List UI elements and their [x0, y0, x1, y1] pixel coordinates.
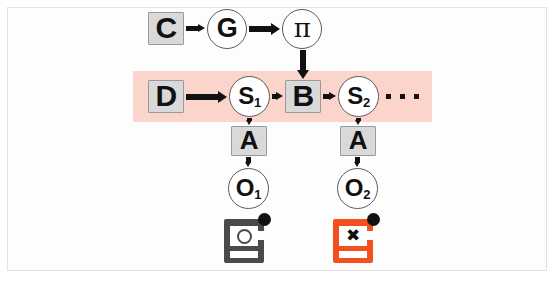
edge-B-to-S2	[323, 89, 336, 105]
device-screen	[230, 226, 258, 246]
node-D: D	[148, 80, 184, 113]
node-G: G	[207, 9, 247, 49]
device-antenna-ball	[258, 213, 271, 226]
edge-arrowhead	[198, 24, 205, 32]
edge-arrowhead	[246, 120, 252, 125]
node-label-S2: S2	[347, 84, 370, 108]
edge-arrowhead	[354, 162, 360, 167]
edge-arrowhead	[355, 120, 361, 125]
edge-D-to-S1	[186, 89, 227, 105]
edge-shaft	[186, 94, 219, 100]
edge-pi-to-B	[295, 50, 311, 79]
edge-arrowhead	[297, 70, 309, 79]
device-screen: ✖	[339, 226, 367, 246]
device-antenna-notch	[367, 231, 379, 240]
diagram-figure: CGπDS1BS2AAO1O2✖	[0, 0, 556, 281]
edge-S1-to-B	[272, 89, 283, 105]
ellipsis-dot	[386, 94, 391, 99]
node-label-B: B	[292, 81, 313, 111]
edge-C-to-G	[186, 21, 205, 37]
node-label-G: G	[217, 15, 238, 42]
edge-shaft	[300, 50, 306, 71]
node-label-A2: A	[349, 127, 367, 153]
node-B: B	[285, 80, 321, 113]
edge-arrowhead	[329, 92, 336, 100]
device-status-bar	[339, 251, 367, 258]
edge-arrowhead	[218, 91, 227, 103]
node-label-pi: π	[294, 15, 311, 41]
node-pi: π	[282, 9, 322, 49]
edge-arrowhead	[245, 162, 251, 167]
device-status-bar	[230, 251, 258, 258]
node-C: C	[148, 12, 184, 45]
device-circle-icon	[237, 229, 252, 244]
node-A1: A	[231, 126, 267, 156]
diagram-canvas: CGπDS1BS2AAO1O2✖	[0, 0, 556, 281]
failed-device-icon: ✖	[333, 213, 381, 267]
node-label-D: D	[155, 81, 176, 111]
working-device-icon	[224, 213, 272, 267]
node-O2: O2	[337, 168, 378, 209]
edge-arrowhead	[276, 92, 283, 100]
node-label-A1: A	[240, 127, 258, 153]
node-subscript-S1: 1	[254, 95, 261, 110]
edge-A2-to-O2	[350, 157, 366, 167]
node-subscript-S2: 2	[363, 95, 370, 110]
node-label-S1: S1	[238, 84, 261, 108]
edge-G-to-pi	[249, 21, 280, 37]
edge-arrowhead	[271, 23, 280, 35]
node-label-C: C	[155, 13, 176, 43]
node-S2: S2	[338, 76, 379, 117]
device-cross-icon: ✖	[346, 227, 360, 244]
edge-shaft	[249, 26, 272, 32]
node-subscript-O2: 2	[363, 187, 370, 202]
ellipsis-dot	[400, 94, 405, 99]
ellipsis-dot	[414, 94, 419, 99]
sequence-ellipsis	[386, 94, 419, 99]
node-S1: S1	[229, 76, 270, 117]
node-O1: O1	[228, 168, 269, 209]
node-A2: A	[340, 126, 376, 156]
node-label-O2: O2	[345, 176, 370, 200]
edge-S2-to-A2	[350, 118, 366, 125]
device-antenna-ball	[367, 213, 380, 226]
edge-S1-to-A1	[241, 118, 257, 125]
node-subscript-O1: 1	[254, 187, 261, 202]
device-antenna-notch	[258, 231, 270, 240]
edge-A1-to-O1	[241, 157, 257, 167]
node-label-O1: O1	[236, 176, 261, 200]
